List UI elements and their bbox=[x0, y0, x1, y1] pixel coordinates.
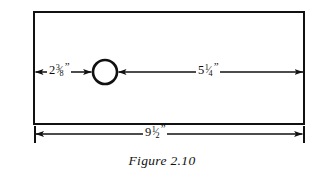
dimension-right-fraction: 1⁄4 bbox=[205, 64, 214, 77]
dimension-right-denominator: 4 bbox=[209, 69, 213, 78]
dimension-left-denominator: 8 bbox=[60, 69, 64, 78]
dimension-overall-whole: 9 bbox=[145, 125, 151, 139]
dimension-left-fraction: 3⁄8 bbox=[56, 64, 65, 77]
rectangular-plate-outline bbox=[34, 12, 304, 124]
dimension-overall-denominator: 2 bbox=[156, 131, 160, 140]
dimension-label-overall: 91⁄2” bbox=[143, 126, 167, 139]
technical-drawing-canvas bbox=[0, 0, 324, 176]
dimension-overall-unit: ” bbox=[161, 122, 165, 134]
dimension-right-whole: 5 bbox=[198, 63, 204, 77]
dimension-right-unit: ” bbox=[214, 60, 218, 72]
circular-hole-outline bbox=[93, 60, 117, 84]
figure-caption: Figure 2.10 bbox=[0, 153, 324, 169]
dimension-left-unit: ” bbox=[65, 60, 69, 72]
dimension-label-left: 23⁄8” bbox=[47, 64, 71, 77]
figure-2-10: 23⁄8” 51⁄4” 91⁄2” Figure 2.10 bbox=[0, 0, 324, 176]
dimension-overall-fraction: 1⁄2 bbox=[152, 126, 161, 139]
dimension-label-right: 51⁄4” bbox=[196, 64, 220, 77]
dimension-left-whole: 2 bbox=[49, 63, 55, 77]
